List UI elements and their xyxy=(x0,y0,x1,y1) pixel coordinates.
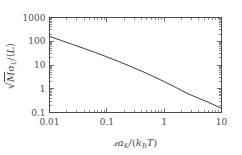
x-tick-label: 1 xyxy=(161,117,167,127)
x-tick-label: 0.1 xyxy=(100,117,114,127)
y-tick-label: 10 xyxy=(34,60,46,70)
y-axis-label: √MσL/⟨L⟩ xyxy=(4,43,18,89)
y-tick-label: 100 xyxy=(28,36,45,46)
figure-container: 0.010.1110 0.11101001000 𝓍aK/(kBT) √MσL/… xyxy=(0,0,242,155)
y-tick-label: 1 xyxy=(40,84,46,94)
x-tick-label: 0.01 xyxy=(39,117,59,127)
y-tick-label: 0.1 xyxy=(31,108,45,118)
plot-background xyxy=(0,0,242,155)
loglog-plot: 0.010.1110 0.11101001000 𝓍aK/(kBT) √MσL/… xyxy=(0,0,242,155)
x-tick-label: 10 xyxy=(216,117,228,127)
y-tick-label: 1000 xyxy=(23,13,46,23)
x-axis-label: 𝓍aK/(kBT) xyxy=(112,136,158,150)
